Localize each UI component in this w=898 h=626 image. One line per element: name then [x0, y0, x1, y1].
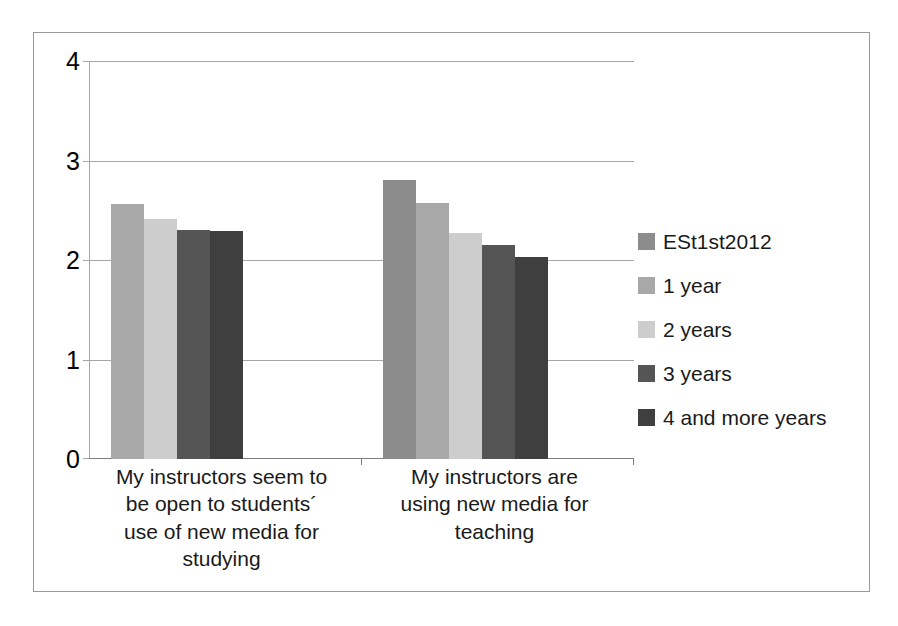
- y-tick-label-2: 2: [66, 248, 80, 273]
- legend-item-2[interactable]: 2 years: [638, 307, 868, 351]
- legend-swatch-icon-1: [638, 277, 655, 294]
- bar-1-2-years[interactable]: [449, 233, 482, 459]
- chart-plot-wrapper: 4 3 2 1 0 My instructors se: [34, 33, 869, 591]
- category-label-1: My instructors are using new media for t…: [367, 463, 622, 545]
- bar-0-1-year[interactable]: [111, 204, 144, 459]
- legend-item-1[interactable]: 1 year: [638, 263, 868, 307]
- bar-1-4-and-more-years[interactable]: [515, 257, 548, 459]
- bar-group-1: [362, 61, 635, 459]
- category-label-1-line-0: My instructors are: [367, 463, 622, 490]
- legend-swatch-icon-2: [638, 321, 655, 338]
- y-tick-label-0: 0: [66, 447, 80, 472]
- category-label-1-line-1: using new media for: [367, 490, 622, 517]
- legend-swatch-icon-4: [638, 409, 655, 426]
- chart-frame: 4 3 2 1 0 My instructors se: [33, 32, 870, 592]
- legend-label-3: 3 years: [663, 363, 732, 384]
- bar-1-3-years[interactable]: [482, 245, 515, 459]
- category-label-0-line-0: My instructors seem to: [89, 463, 354, 490]
- category-label-1-line-2: teaching: [367, 518, 622, 545]
- category-label-0: My instructors seem to be open to studen…: [89, 463, 354, 572]
- category-label-0-line-3: studying: [89, 545, 354, 572]
- legend-item-4[interactable]: 4 and more years: [638, 395, 868, 439]
- legend-label-4: 4 and more years: [663, 407, 826, 428]
- legend-swatch-icon-0: [638, 233, 655, 250]
- legend-swatch-icon-3: [638, 365, 655, 382]
- legend-label-1: 1 year: [663, 275, 721, 296]
- bar-0-2-years[interactable]: [144, 219, 177, 459]
- category-label-0-line-2: use of new media for: [89, 518, 354, 545]
- bar-0-3-years[interactable]: [177, 230, 210, 459]
- bar-1-1-year[interactable]: [416, 203, 449, 459]
- category-label-0-line-1: be open to students´: [89, 490, 354, 517]
- legend-label-2: 2 years: [663, 319, 732, 340]
- plot-area: [89, 61, 634, 459]
- y-tick-label-3: 3: [66, 148, 80, 173]
- y-axis-labels: 4 3 2 1 0: [34, 33, 86, 593]
- chart-legend: ESt1st20121 year2 years3 years4 and more…: [638, 219, 868, 439]
- bar-1-est1st2012[interactable]: [383, 180, 416, 459]
- legend-item-3[interactable]: 3 years: [638, 351, 868, 395]
- legend-item-0[interactable]: ESt1st2012: [638, 219, 868, 263]
- bars-layer: [89, 61, 634, 459]
- legend-label-0: ESt1st2012: [663, 231, 772, 252]
- bar-0-4-and-more-years[interactable]: [210, 231, 243, 459]
- category-labels: My instructors seem to be open to studen…: [89, 463, 634, 583]
- y-tick-label-4: 4: [66, 49, 80, 74]
- y-tick-label-1: 1: [66, 347, 80, 372]
- bar-group-0: [89, 61, 362, 459]
